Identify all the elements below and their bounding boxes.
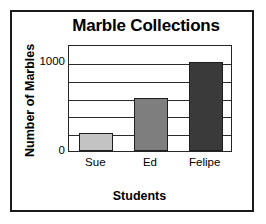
x-tick-label-felipe: Felipe — [177, 156, 232, 168]
x-axis-tick-labels: SueEdFelipe — [68, 156, 232, 174]
bar-felipe — [189, 62, 223, 151]
plot-area — [68, 45, 232, 152]
x-axis-title: Students — [62, 189, 217, 203]
x-tick-label-ed: Ed — [123, 156, 178, 168]
y-axis-tick-labels: 01000 — [24, 45, 65, 152]
bar-ed — [134, 98, 168, 152]
y-tick-label: 1000 — [27, 55, 65, 67]
chart-figure: Marble Collections Number of Marbles Stu… — [0, 0, 266, 224]
bar-sue — [79, 133, 113, 151]
x-tick-label-sue: Sue — [68, 156, 123, 168]
chart-title: Marble Collections — [40, 16, 252, 36]
y-tick-label: 0 — [27, 144, 65, 156]
